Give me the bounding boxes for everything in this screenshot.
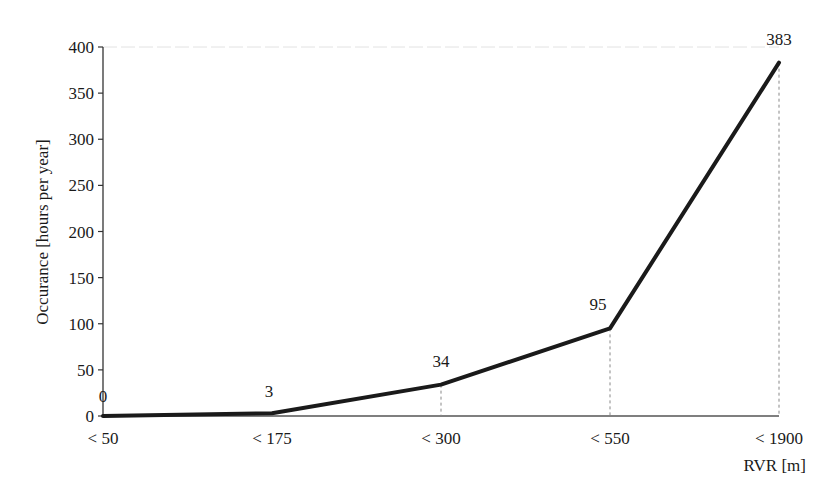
- x-axis: < 50< 175< 300< 550< 1900: [88, 416, 803, 448]
- data-point-label: 95: [590, 295, 607, 314]
- y-axis-title: Occurance [hours per year]: [33, 139, 52, 324]
- y-tick-label: 250: [69, 176, 95, 195]
- data-labels: 033495383: [99, 30, 792, 406]
- x-tick-label: < 50: [88, 429, 119, 448]
- data-point-label: 0: [99, 387, 108, 406]
- data-point-label: 383: [766, 30, 792, 49]
- line-chart: 050100150200250300350400 < 50< 175< 300<…: [0, 0, 829, 496]
- y-tick-label: 0: [86, 407, 95, 426]
- y-tick-label: 400: [69, 38, 95, 57]
- y-tick-label: 150: [69, 269, 95, 288]
- y-tick-label: 200: [69, 223, 95, 242]
- y-tick-label: 50: [77, 361, 94, 380]
- drop-lines: [272, 63, 779, 416]
- y-tick-label: 100: [69, 315, 95, 334]
- x-tick-label: < 550: [590, 429, 629, 448]
- y-tick-label: 350: [69, 84, 95, 103]
- data-point-label: 34: [433, 352, 451, 371]
- y-axis: 050100150200250300350400: [69, 38, 104, 426]
- x-axis-title: RVR [m]: [744, 456, 806, 475]
- x-tick-label: < 175: [252, 429, 291, 448]
- data-point-label: 3: [265, 382, 274, 401]
- x-tick-label: < 1900: [755, 429, 803, 448]
- x-tick-label: < 300: [421, 429, 460, 448]
- y-tick-label: 300: [69, 130, 95, 149]
